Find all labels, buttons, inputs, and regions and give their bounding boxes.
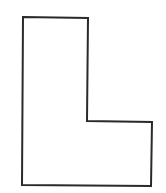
- diagram-canvas: [0, 0, 166, 193]
- l-shape-outline: [22, 17, 152, 186]
- l-shape-diagram: [0, 0, 166, 193]
